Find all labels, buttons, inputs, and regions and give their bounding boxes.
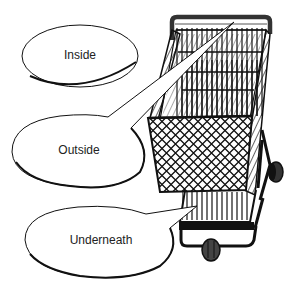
label-outside: Outside xyxy=(58,143,99,157)
diagram-canvas xyxy=(0,0,295,287)
cart-diagram: Inside Outside Underneath xyxy=(0,0,295,287)
front-wheel-icon xyxy=(202,239,220,261)
label-inside: Inside xyxy=(64,48,96,62)
label-underneath: Underneath xyxy=(70,233,133,247)
